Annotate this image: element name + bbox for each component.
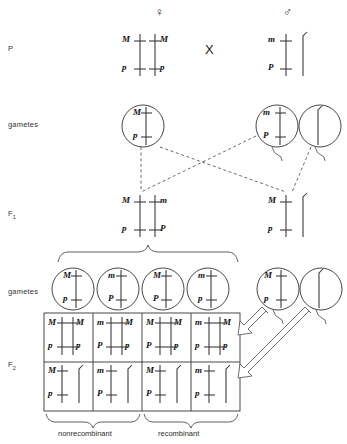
punnett-row2-chromosomes	[57, 365, 230, 403]
punnett-row1-chromosomes	[57, 317, 226, 355]
gamete-f1-female-circle-1	[52, 268, 94, 310]
male-gamete-arrow-to-row2	[238, 307, 311, 378]
f1-male-chromosome-pair	[280, 193, 307, 237]
gametes-top-brace	[58, 245, 238, 262]
male-gamete-arrow-to-row1	[238, 307, 268, 335]
diagram-vector-layer	[0, 0, 347, 444]
gamete-f1-male-y-circle	[300, 268, 342, 324]
gamete-p-female-circle	[122, 105, 164, 147]
gamete-f1-female-circle-2	[97, 268, 139, 310]
p-male-chromosome-pair	[280, 32, 307, 76]
gamete-p-male-y-circle	[299, 105, 341, 161]
fertilization-dashed-lines	[141, 136, 311, 192]
f1-female-chromosome-pair	[134, 195, 161, 237]
bottom-brace-recombinant	[144, 414, 238, 428]
gamete-f1-female-circle-3	[142, 268, 184, 310]
bottom-brace-nonrecombinant	[46, 414, 140, 428]
gamete-f1-female-circle-4	[187, 268, 229, 310]
gamete-f1-male-x-circle	[257, 268, 299, 324]
p-female-chromosome-pair	[134, 34, 161, 76]
genetics-cross-diagram: P gametes F1 gametes F2 ♀ ♂ X M p M p m …	[0, 0, 347, 444]
gamete-p-male-x-circle	[256, 105, 298, 161]
